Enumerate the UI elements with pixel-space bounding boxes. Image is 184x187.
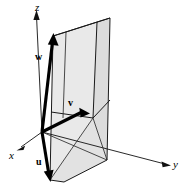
- y-axis-arrowhead: [162, 161, 172, 167]
- vector-label-v: v: [68, 98, 73, 108]
- vector-label-u: u: [36, 157, 42, 167]
- z-axis-line: [37, 16, 43, 132]
- axis-label-x: x: [9, 150, 14, 161]
- x-axis-arrowhead: [17, 146, 26, 151]
- x-axis-line: [21, 132, 42, 147]
- axis-label-y: y: [173, 159, 178, 170]
- axis-label-z: z: [35, 2, 39, 13]
- vector-parallelepiped-figure: z x y w v u: [0, 0, 184, 187]
- vector-label-w: w: [35, 52, 42, 62]
- figure-canvas: [0, 0, 184, 187]
- vector-u-shaft: [42, 132, 49, 172]
